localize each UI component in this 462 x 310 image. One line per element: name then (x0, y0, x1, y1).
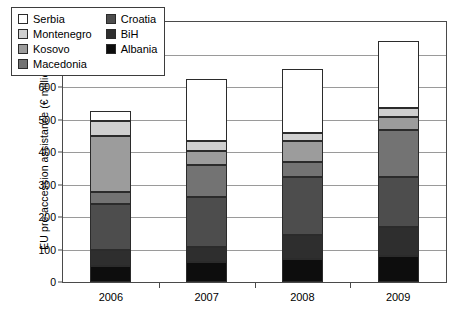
legend-item-label: BiH (121, 29, 139, 40)
bar-stack (186, 22, 227, 282)
bar-segment-albania (282, 259, 323, 282)
bar-segment-montenegro (186, 141, 227, 151)
bar-segment-serbia (378, 41, 419, 108)
bar-stack (282, 22, 323, 282)
x-axis-tick-label: 2007 (194, 291, 218, 303)
x-axis-tick-label: 2006 (99, 291, 123, 303)
y-axis-tick-mark (58, 217, 63, 218)
bar-segment-bih (378, 227, 419, 256)
bar-segment-montenegro (282, 133, 323, 141)
x-axis-tick-label: 2009 (386, 291, 410, 303)
bar-segment-bih (90, 250, 131, 267)
legend-swatch-icon (18, 14, 28, 24)
legend-item: Albania (106, 42, 158, 56)
bar-segment-montenegro (90, 121, 131, 136)
bar-segment-croatia (378, 177, 419, 226)
y-axis-tick-mark (58, 184, 63, 185)
legend-item: Montenegro (18, 27, 92, 41)
bar-segment-croatia (186, 197, 227, 247)
legend-item-label: Croatia (121, 14, 156, 25)
legend-swatch-icon (18, 29, 28, 39)
legend-swatch-icon (106, 14, 116, 24)
bar-segment-bih (282, 235, 323, 259)
bar-segment-bih (186, 247, 227, 262)
bar-segment-macedonia (90, 192, 131, 204)
bar-segment-montenegro (378, 108, 419, 117)
legend-item: Macedonia (18, 57, 92, 71)
bar-segment-albania (378, 256, 419, 282)
bar-segment-kosovo (378, 117, 419, 130)
legend-swatch-icon (106, 29, 116, 39)
legend-item-label: Kosovo (33, 44, 70, 55)
bar-segment-croatia (282, 177, 323, 235)
bar-segment-croatia (90, 204, 131, 250)
bar-segment-serbia (282, 69, 323, 133)
y-axis-tick-mark (58, 119, 63, 120)
legend-item-label: Montenegro (33, 29, 92, 40)
y-axis-tick-mark (58, 87, 63, 88)
legend-swatch-icon (106, 44, 116, 54)
bar-segment-kosovo (90, 136, 131, 192)
bar-segment-macedonia (282, 162, 323, 178)
legend-column-right: CroatiaBiHAlbania (106, 12, 158, 71)
chart-legend: SerbiaMontenegroKosovoMacedonia CroatiaB… (11, 7, 165, 76)
x-axis-tick-label: 2008 (290, 291, 314, 303)
legend-item: BiH (106, 27, 158, 41)
bar-segment-albania (90, 266, 131, 282)
legend-item: Croatia (106, 12, 158, 26)
legend-item-label: Macedonia (33, 59, 87, 70)
bar-segment-kosovo (186, 151, 227, 165)
bar-segment-serbia (90, 111, 131, 121)
bar-segment-albania (186, 262, 227, 282)
legend-item-label: Serbia (33, 14, 65, 25)
chart-figure: EU pre-accession assistance (€ million) … (0, 0, 462, 310)
legend-item: Serbia (18, 12, 92, 26)
bar-segment-macedonia (186, 165, 227, 197)
bar-segment-serbia (186, 79, 227, 140)
bar-segment-macedonia (378, 130, 419, 177)
legend-item: Kosovo (18, 42, 92, 56)
x-axis-tick-mark (159, 282, 160, 288)
x-axis-tick-mark (350, 282, 351, 288)
legend-swatch-icon (18, 59, 28, 69)
legend-item-label: Albania (121, 44, 158, 55)
x-axis-tick-mark (255, 282, 256, 288)
y-axis-tick-mark (58, 282, 63, 283)
y-axis-tick-mark (58, 152, 63, 153)
y-axis-tick-mark (58, 249, 63, 250)
bar-stack (378, 22, 419, 282)
legend-column-left: SerbiaMontenegroKosovoMacedonia (18, 12, 92, 71)
legend-swatch-icon (18, 44, 28, 54)
bar-segment-kosovo (282, 141, 323, 161)
